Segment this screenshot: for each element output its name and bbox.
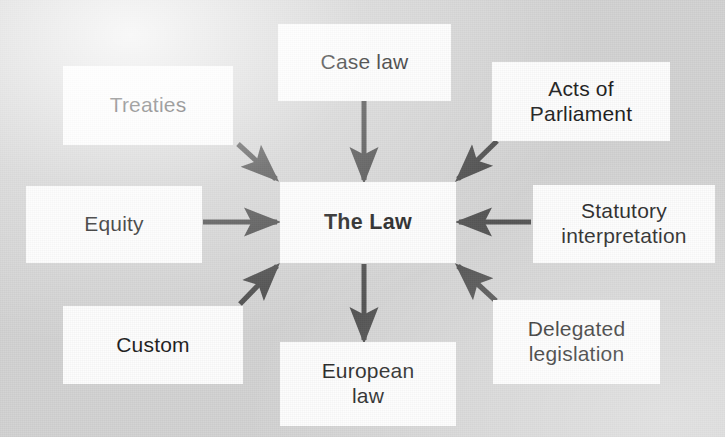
node-case-law-label: Case law xyxy=(321,50,409,75)
arrow-delegated-legislation-to-law xyxy=(458,266,496,301)
node-the-law[interactable]: The Law xyxy=(280,182,456,263)
node-delegated-legislation-label: Delegated legislation xyxy=(528,317,626,367)
node-statutory-interpretation[interactable]: Statutory interpretation xyxy=(533,185,715,263)
arrow-acts-of-parliament-to-law xyxy=(458,141,497,179)
node-acts-of-parliament[interactable]: Acts of Parliament xyxy=(492,62,670,141)
node-delegated-legislation[interactable]: Delegated legislation xyxy=(493,300,660,384)
node-equity-label: Equity xyxy=(84,212,144,237)
node-custom-label: Custom xyxy=(116,333,190,358)
node-the-law-label: The Law xyxy=(324,210,412,235)
law-sources-diagram: Treaties Case law Acts of Parliament Equ… xyxy=(0,0,725,437)
node-equity[interactable]: Equity xyxy=(26,186,202,263)
node-european-law[interactable]: European law xyxy=(280,342,456,426)
arrow-custom-to-law xyxy=(240,266,277,304)
node-statutory-interpretation-label: Statutory interpretation xyxy=(561,199,686,249)
arrow-treaties-to-law xyxy=(238,144,276,179)
node-case-law[interactable]: Case law xyxy=(278,24,451,101)
node-custom[interactable]: Custom xyxy=(63,306,243,384)
node-european-law-label: European law xyxy=(322,359,415,409)
node-treaties-label: Treaties xyxy=(110,93,187,118)
node-treaties[interactable]: Treaties xyxy=(63,66,233,145)
node-acts-of-parliament-label: Acts of Parliament xyxy=(530,77,632,127)
